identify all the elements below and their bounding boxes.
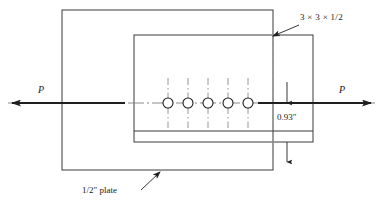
- outer-plate-outline: [62, 10, 273, 170]
- force-label-left: P: [38, 85, 44, 95]
- angle-spec-label: 3 × 3 × 1/2: [300, 13, 343, 22]
- bolt-hole: [163, 98, 173, 108]
- diagram-canvas: [0, 0, 383, 207]
- bolt-hole: [203, 98, 213, 108]
- plate-spec-leader-line: [141, 172, 160, 190]
- bolt-hole: [243, 98, 253, 108]
- bolt-hole: [223, 98, 233, 108]
- angle-spec-leader-line: [273, 25, 299, 36]
- edge-distance-label: 0.93″: [277, 113, 297, 122]
- bolt-hole: [183, 98, 193, 108]
- plate-spec-label: 1/2″ plate: [82, 186, 117, 195]
- force-label-right: P: [339, 85, 345, 95]
- engineering-diagram-figure: P P 3 × 3 × 1/2 0.93″ 1/2″ plate: [0, 0, 383, 207]
- angle-section-outline: [134, 35, 313, 142]
